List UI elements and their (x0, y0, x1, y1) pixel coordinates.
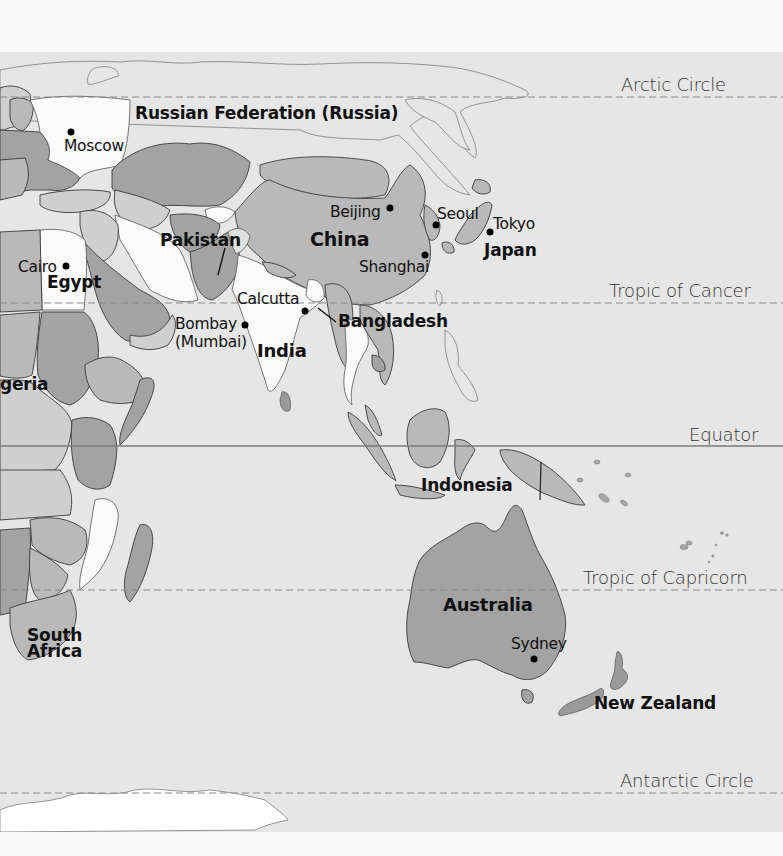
indonesia-label: Indonesia (421, 475, 513, 495)
beijing-dot (387, 205, 394, 212)
japan-label: Japan (484, 240, 537, 260)
pakistan-label: Pakistan (160, 230, 241, 250)
arctic-circle-label: Arctic Circle (621, 74, 726, 95)
mumbai-label: (Mumbai) (175, 333, 247, 351)
moscow-dot (68, 129, 75, 136)
shanghai-label: Shanghai (359, 258, 429, 276)
drc (0, 470, 72, 520)
beijing-label: Beijing (330, 203, 381, 221)
russia-label: Russian Federation (Russia) (135, 103, 398, 123)
bombay-dot (242, 322, 249, 329)
china-label: China (310, 228, 369, 250)
calcutta-label: Calcutta (237, 290, 299, 308)
world-map-eastern-hemisphere (0, 0, 783, 856)
bombay-label: Bombay (175, 315, 237, 333)
angola-namibia (0, 528, 31, 615)
south-africa-line2: Africa (27, 643, 82, 659)
cairo-label: Cairo (18, 258, 57, 276)
nigeria-label: geria (0, 374, 48, 394)
tokyo-label: Tokyo (493, 215, 535, 233)
seoul-label: Seoul (437, 205, 479, 223)
kenya-tanzania (71, 418, 117, 490)
tropic-of-cancer-label: Tropic of Cancer (609, 280, 751, 301)
cairo-dot (63, 263, 70, 270)
new-zealand-label: New Zealand (594, 693, 716, 713)
calcutta-dot (302, 308, 309, 315)
australia-label: Australia (443, 594, 533, 615)
antarctic-circle-label: Antarctic Circle (620, 770, 754, 791)
south-africa-label: South Africa (27, 627, 82, 659)
equator-label: Equator (689, 424, 758, 445)
tropic-of-capricorn-label: Tropic of Capricorn (583, 567, 748, 588)
bottom-margin (0, 832, 783, 856)
bangladesh-label: Bangladesh (338, 311, 448, 331)
sydney-label: Sydney (511, 635, 567, 653)
india-label: India (257, 340, 307, 361)
sydney-dot (531, 656, 538, 663)
moscow-label: Moscow (64, 137, 124, 155)
